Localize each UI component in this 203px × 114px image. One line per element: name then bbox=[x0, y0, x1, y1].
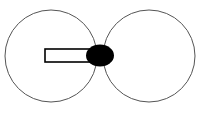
black-ellipse bbox=[86, 45, 114, 67]
diagram-canvas bbox=[0, 0, 203, 114]
